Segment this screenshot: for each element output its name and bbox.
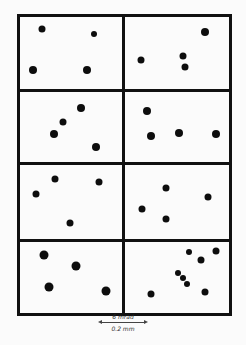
diffraction-spot (67, 220, 74, 227)
diffraction-spot (29, 66, 37, 74)
diffraction-spot (72, 262, 81, 271)
diffraction-spot (202, 289, 209, 296)
diffraction-spot (92, 143, 100, 151)
diffraction-spot (102, 287, 111, 296)
diffraction-spot (40, 251, 49, 260)
row-divider-1 (17, 89, 232, 92)
row-divider-2 (17, 162, 232, 165)
scale-angle-label: 6 mrad (98, 313, 148, 320)
diffraction-spot (205, 194, 212, 201)
diffraction-spot (163, 216, 170, 223)
diffraction-spot (91, 31, 97, 37)
diffraction-spot (184, 281, 190, 287)
diffraction-spot (198, 257, 205, 264)
diffraction-spot (60, 119, 67, 126)
diffraction-spot (163, 185, 170, 192)
scale-length-label: 0.2 mm (98, 325, 148, 332)
diffraction-spot (96, 179, 103, 186)
diffraction-spot (180, 53, 187, 60)
diffraction-spot (45, 283, 54, 292)
diffraction-spot (186, 249, 192, 255)
diffraction-spot (213, 248, 220, 255)
spot-pattern-figure: 6 mrad 0.2 mm (0, 0, 246, 345)
diffraction-spot (33, 191, 40, 198)
diffraction-spot (182, 64, 189, 71)
diffraction-spot (201, 28, 209, 36)
row-divider-3 (17, 239, 232, 242)
column-divider (122, 14, 125, 316)
diffraction-spot (83, 66, 91, 74)
scale-bar: 6 mrad 0.2 mm (98, 313, 148, 337)
scale-double-arrow-icon (100, 322, 146, 323)
diffraction-spot (212, 130, 220, 138)
diffraction-spot (77, 104, 85, 112)
diffraction-spot (147, 132, 155, 140)
diffraction-spot (39, 26, 46, 33)
diffraction-spot (180, 275, 186, 281)
diffraction-spot (50, 130, 58, 138)
diffraction-spot (143, 107, 151, 115)
diffraction-spot (52, 176, 59, 183)
diffraction-spot (138, 57, 145, 64)
diffraction-spot (148, 291, 155, 298)
diffraction-spot (175, 129, 183, 137)
diffraction-spot (139, 206, 146, 213)
